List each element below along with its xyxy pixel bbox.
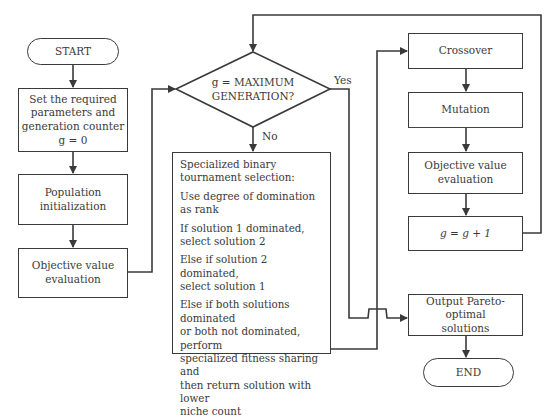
population-init-label: Population initialization xyxy=(19,186,127,213)
increment-box: g = g + 1 xyxy=(408,216,523,251)
selection-rule-3: Else if both solutions dominated or both… xyxy=(180,298,323,418)
crossover-box: Crossover xyxy=(408,33,523,69)
mutation-box: Mutation xyxy=(408,92,523,128)
start-label: START xyxy=(55,45,91,59)
output-label: Output Pareto-optimal solutions xyxy=(409,295,522,336)
output-box: Output Pareto-optimal solutions xyxy=(408,294,523,336)
selection-title: Specialized binary tournament selection: xyxy=(180,158,295,185)
set-parameters-box: Set the required parameters and generati… xyxy=(18,88,128,152)
set-parameters-label: Set the required parameters and generati… xyxy=(22,93,124,148)
end-label: END xyxy=(456,366,481,380)
selection-rule-rank: Use degree of domination as rank xyxy=(180,190,315,217)
objective-eval-right-box: Objective value evaluation xyxy=(408,152,523,194)
objective-eval-right-label: Objective value evaluation xyxy=(424,159,506,186)
objective-eval-left-box: Objective value evaluation xyxy=(18,248,128,298)
no-label: No xyxy=(262,130,278,142)
crossover-label: Crossover xyxy=(439,44,493,58)
population-init-box: Population initialization xyxy=(18,174,128,225)
selection-rule-1: If solution 1 dominated, select solution… xyxy=(180,222,305,249)
end-terminal: END xyxy=(423,358,514,387)
selection-rule-2: Else if solution 2 dominated, select sol… xyxy=(180,253,323,293)
mutation-label: Mutation xyxy=(441,103,490,117)
increment-label: g = g + 1 xyxy=(440,227,491,241)
start-terminal: START xyxy=(27,38,119,65)
yes-label: Yes xyxy=(334,74,352,86)
selection-box: Specialized binary tournament selection:… xyxy=(172,152,331,354)
decision-label: g = MAXIMUM GENERATION? xyxy=(200,76,306,103)
objective-eval-left-label: Objective value evaluation xyxy=(32,259,114,286)
